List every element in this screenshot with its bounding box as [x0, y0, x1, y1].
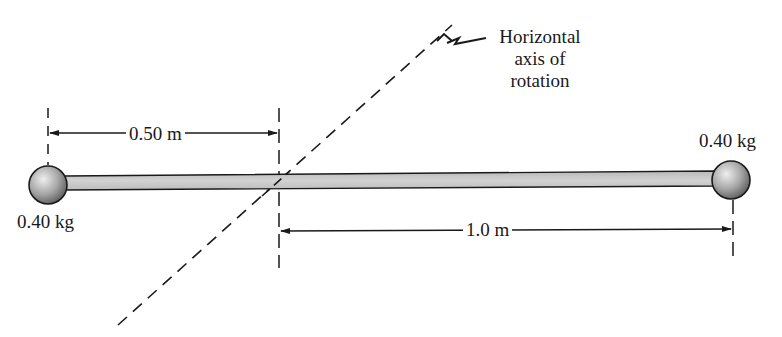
right-mass-label: 0.40 kg [699, 131, 756, 150]
diagram-canvas [0, 0, 782, 337]
left-mass-label: 0.40 kg [17, 212, 74, 231]
rotation-axis-label: Horizontal axis of rotation [484, 26, 596, 92]
right-mass-ball [712, 161, 750, 199]
rod [64, 171, 715, 190]
axis-label-line2: axis of [484, 48, 596, 70]
left-mass-ball [29, 166, 67, 204]
dimension-right-label: 1.0 m [463, 220, 512, 239]
axis-label-line3: rotation [484, 70, 596, 92]
dimension-left-label: 0.50 m [126, 124, 185, 143]
axis-label-line1: Horizontal [484, 26, 596, 48]
axis-label-leader [437, 34, 486, 44]
